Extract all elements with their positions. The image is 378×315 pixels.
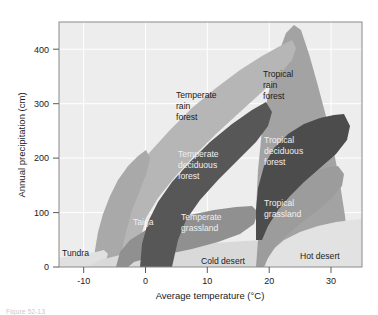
svg-text:deciduous: deciduous bbox=[178, 160, 217, 170]
svg-text:grassland: grassland bbox=[181, 223, 218, 233]
y-tick-300: 300 bbox=[34, 99, 49, 109]
svg-text:Tropical: Tropical bbox=[263, 69, 293, 79]
y-tick-200: 200 bbox=[34, 153, 49, 163]
x-tick-0: 0 bbox=[143, 276, 148, 286]
y-tick-400: 400 bbox=[34, 45, 49, 55]
biome-label-cold-desert: Cold desert bbox=[201, 256, 246, 266]
x-tick-10: 10 bbox=[202, 276, 212, 286]
svg-text:Tropical: Tropical bbox=[264, 198, 294, 208]
x-tick-20: 20 bbox=[264, 276, 274, 286]
x-tick-minus10: -10 bbox=[77, 276, 90, 286]
svg-text:deciduous: deciduous bbox=[264, 146, 303, 156]
svg-text:Temperate: Temperate bbox=[176, 90, 217, 100]
svg-text:forest: forest bbox=[178, 171, 200, 181]
x-tick-30: 30 bbox=[326, 276, 336, 286]
y-tick-0: 0 bbox=[44, 262, 49, 272]
y-axis-title: Annual precipitation (cm) bbox=[16, 92, 27, 197]
whittaker-biome-chart: 400 300 200 100 0 -10 0 10 20 30 Average… bbox=[0, 0, 378, 315]
svg-text:rain: rain bbox=[176, 101, 191, 111]
svg-text:grassland: grassland bbox=[264, 209, 301, 219]
svg-text:rain: rain bbox=[263, 80, 278, 90]
svg-text:Temperate: Temperate bbox=[181, 212, 222, 222]
y-tick-100: 100 bbox=[34, 208, 49, 218]
svg-text:forest: forest bbox=[176, 112, 198, 122]
x-axis-title: Average temperature (°C) bbox=[156, 290, 265, 301]
figure-container: 400 300 200 100 0 -10 0 10 20 30 Average… bbox=[0, 0, 378, 315]
biome-label-hot-desert: Hot desert bbox=[300, 251, 340, 261]
svg-text:Tropical: Tropical bbox=[264, 135, 294, 145]
svg-text:forest: forest bbox=[264, 157, 286, 167]
svg-text:forest: forest bbox=[263, 91, 285, 101]
biome-label-tundra: Tundra bbox=[62, 248, 89, 258]
biome-label-temperate-grassland: Temperate grassland bbox=[181, 212, 222, 233]
svg-text:Temperate: Temperate bbox=[178, 149, 219, 159]
figure-caption: Figure 52-13 bbox=[6, 308, 45, 315]
biome-label-taiga: Taiga bbox=[133, 217, 154, 227]
